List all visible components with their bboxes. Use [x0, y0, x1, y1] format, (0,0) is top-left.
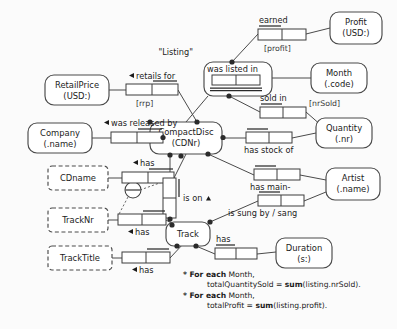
entity-profit-ref: (USD:): [342, 28, 369, 38]
value-type-tracktitle[interactable]: TrackTitle: [48, 246, 112, 270]
entity-quantity-name: Quantity: [326, 123, 362, 133]
compactdisc-role-dot-topleft: [147, 119, 152, 124]
facttype-track-has-nr-role-dot: [169, 222, 174, 227]
entity-retailprice[interactable]: RetailPrice (USD:): [45, 75, 109, 105]
rule-2-lead: For each: [189, 291, 226, 300]
facttype-has-stock-of[interactable]: has stock of: [220, 129, 294, 155]
rule-2-body-suffix: (listing.profit).: [273, 301, 327, 310]
entity-compactdisc-ref: (CDNr): [172, 138, 201, 148]
listing-role-dot-top: [229, 59, 234, 64]
facttype-is-on-reading: is on: [183, 193, 202, 203]
entity-duration-ref: (s:): [297, 254, 311, 264]
derivation-rules-block: * For each Month, totalQuantitySold = su…: [183, 270, 397, 312]
facttype-has-stock-of-role-dot: [220, 135, 225, 140]
facttype-is-on-arrow-icon: [206, 196, 211, 201]
rule-1-body-prefix: totalQuantitySold =: [207, 280, 285, 289]
entity-retailprice-ref: (USD:): [63, 91, 90, 101]
value-type-tracknr-label: TrackNr: [61, 215, 94, 225]
rule-1-star: *: [183, 270, 187, 279]
entity-track-name: Track: [176, 229, 199, 239]
value-type-tracktitle-label: TrackTitle: [59, 253, 100, 263]
facttype-has-main-artist[interactable]: has main-: [205, 151, 300, 192]
entity-retailprice-name: RetailPrice: [55, 80, 99, 90]
entity-company-name: Company: [40, 128, 80, 138]
facttype-track-has-duration-role-dot: [193, 243, 198, 248]
entity-month-ref: (.code): [324, 79, 353, 89]
entity-profit[interactable]: Profit (USD:): [330, 12, 382, 44]
facttype-retails-for-arrow-icon: [129, 73, 134, 78]
entity-company[interactable]: Company (.name): [28, 123, 92, 153]
entity-quantity-ref: (.nr): [335, 134, 353, 144]
connector-compactdisc-hasmain: [208, 154, 254, 175]
facttype-track-has-nr-arrow-icon: [128, 229, 133, 234]
facttype-sold-in[interactable]: sold in [nrSold]: [260, 93, 340, 119]
connector-track-hasduration: [196, 246, 215, 254]
objectified-listing-predicate: was listed in: [207, 64, 258, 74]
entity-month[interactable]: Month (.code): [311, 63, 367, 93]
orm-diagram-canvas: RetailPrice (USD:) Company (.name) CDnam…: [0, 0, 397, 329]
listing-role-dot-bottom: [226, 93, 231, 98]
compactdisc-role-dot-topright: [194, 119, 199, 124]
facttype-retails-for[interactable]: retails for [rrp]: [126, 71, 178, 109]
facttype-cd-has-name-arrow-icon: [133, 160, 138, 165]
value-type-cdname[interactable]: CDname: [48, 166, 108, 190]
entity-profit-name: Profit: [345, 17, 368, 27]
facttype-retails-for-reading: retails for: [136, 71, 176, 81]
rule-2-subject: Month,: [229, 291, 255, 300]
facttype-track-has-nr-reading: has: [135, 227, 149, 237]
rule-1-lead: For each: [189, 270, 226, 279]
rule-2-body-prefix: totalProfit =: [207, 301, 255, 310]
facttype-was-released-by-arrow-icon: [104, 120, 109, 125]
value-type-cdname-label: CDname: [60, 173, 96, 183]
entity-artist-name: Artist: [342, 173, 365, 183]
rule-1-subject: Month,: [229, 270, 255, 279]
facttype-track-has-title[interactable]: has: [122, 243, 180, 274]
value-type-tracknr[interactable]: TrackNr: [48, 208, 108, 232]
facttype-cd-has-name-reading: has: [140, 158, 154, 168]
objectified-listing-label: "Listing": [158, 47, 193, 57]
facttype-is-sung-by-reading: is sung by / sang: [228, 208, 297, 218]
rule-2-star: *: [183, 291, 187, 300]
rule-2-header: * For each Month,: [183, 291, 397, 301]
entity-artist-ref: (.name): [337, 184, 370, 194]
facttype-is-on[interactable]: is on: [163, 178, 211, 222]
connector-hasstock-quantity: [292, 133, 316, 138]
facttype-track-has-title-arrow-icon: [132, 267, 137, 272]
facttype-is-sung-by[interactable]: is sung by / sang: [207, 192, 304, 225]
facttype-track-has-duration-reading: has: [216, 234, 230, 244]
entity-quantity[interactable]: Quantity (.nr): [316, 118, 372, 148]
connector-rrp-compactdisc: [178, 90, 197, 122]
connector-hasmain-artist: [300, 175, 326, 180]
facttype-has-stock-of-reading: has stock of: [244, 145, 294, 155]
rule-1-header: * For each Month,: [183, 270, 397, 280]
compactdisc-role-dot-bottomleft: [167, 152, 172, 157]
entity-company-ref: (.name): [44, 139, 77, 149]
connector-issungby-artist: [304, 192, 326, 201]
entity-compactdisc-name: CompactDisc: [158, 127, 214, 137]
facttype-was-released-by-reading: was released by: [111, 118, 177, 128]
connector-listing-soldin: [229, 96, 260, 112]
connector-listing-earned: [232, 34, 258, 62]
facttype-is-sung-by-role-dot: [207, 219, 212, 224]
rule-1-body: totalQuantitySold = sum(listing.nrSold).: [183, 280, 397, 290]
facttype-earned-reading: earned: [259, 15, 288, 25]
facttype-has-main-artist-role-dot: [205, 151, 210, 156]
facttype-track-has-title-reading: has: [139, 265, 153, 275]
facttype-sold-in-derivation: [nrSold]: [309, 99, 340, 108]
entity-duration-name: Duration: [286, 243, 322, 253]
facttype-track-has-title-role-dot: [174, 243, 179, 248]
facttype-is-on-role-dot: [167, 216, 172, 221]
facttype-cd-has-name-role-dot: [178, 153, 183, 158]
facttype-earned[interactable]: earned [profit]: [258, 15, 306, 54]
rule-2-fn: sum: [255, 301, 273, 310]
entity-artist[interactable]: Artist (.name): [326, 168, 380, 200]
entity-duration[interactable]: Duration (s:): [276, 238, 332, 268]
connector-earned-profit: [306, 28, 330, 34]
facttype-was-released-by-role-dot: [160, 135, 165, 140]
facttype-has-main-artist-reading: has main-: [250, 182, 291, 192]
constraint-dashed-to-tracknr: [118, 197, 128, 216]
facttype-earned-derivation: [profit]: [264, 44, 291, 53]
facttype-sold-in-reading: sold in: [260, 93, 287, 103]
entity-month-name: Month: [326, 68, 352, 78]
facttype-retails-for-derivation: [rrp]: [136, 99, 153, 108]
